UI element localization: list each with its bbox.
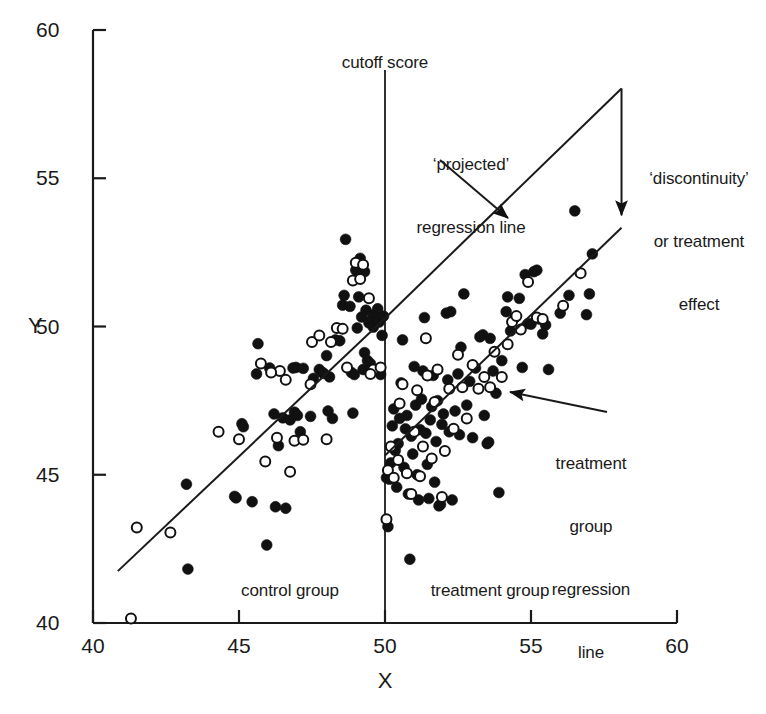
projected-line-label-line1: ‘projected’ <box>396 154 546 175</box>
data-point <box>165 528 175 538</box>
data-point <box>473 384 483 394</box>
data-point <box>497 372 507 382</box>
data-point <box>485 382 495 392</box>
data-point <box>427 453 437 463</box>
control-group-label: control group <box>220 580 360 601</box>
data-point <box>402 410 413 421</box>
data-point <box>234 434 244 444</box>
data-point <box>462 413 472 423</box>
data-point <box>272 433 282 443</box>
y-axis-title: Y <box>28 313 43 339</box>
data-point <box>496 355 507 366</box>
data-point <box>126 614 136 624</box>
data-point <box>397 334 408 345</box>
discontinuity-label-line2: or treatment <box>634 231 764 252</box>
data-point <box>569 205 580 216</box>
data-point <box>584 288 595 299</box>
data-point <box>285 467 295 477</box>
data-point <box>280 503 291 514</box>
data-point <box>214 427 224 437</box>
data-point <box>358 260 368 270</box>
data-point <box>420 428 431 439</box>
data-point <box>321 350 332 361</box>
data-point <box>538 314 548 324</box>
treatment-line-label-line2: group <box>528 516 654 537</box>
data-point <box>298 363 309 374</box>
data-point <box>181 479 192 490</box>
data-point <box>404 554 415 565</box>
data-point <box>253 338 264 349</box>
data-point <box>339 290 350 301</box>
data-point <box>402 468 412 478</box>
data-point <box>412 385 422 395</box>
data-point <box>364 293 374 303</box>
discontinuity-label: ‘discontinuity’ or treatment effect <box>634 126 764 357</box>
data-point <box>458 288 469 299</box>
y-tick-label-45: 45 <box>36 463 59 487</box>
data-point <box>270 501 281 512</box>
data-point <box>421 333 431 343</box>
data-point <box>269 409 280 420</box>
x-tick-label-60: 60 <box>652 634 702 658</box>
data-point <box>479 410 490 421</box>
data-point <box>389 473 399 483</box>
data-point <box>251 369 262 380</box>
data-point <box>461 400 472 411</box>
data-point <box>247 496 258 507</box>
data-point <box>342 362 352 372</box>
data-point <box>231 492 242 503</box>
treatment-line-label: treatment group regression line <box>528 411 654 705</box>
y-tick-label-55: 55 <box>36 166 59 190</box>
cutoff-score-label: cutoff score <box>305 52 465 73</box>
data-point <box>238 421 249 432</box>
data-point <box>449 424 459 434</box>
data-point <box>183 564 194 575</box>
data-point <box>517 362 528 373</box>
data-point <box>305 411 316 422</box>
data-point <box>433 364 443 374</box>
data-point <box>558 301 568 311</box>
data-point <box>338 324 348 334</box>
data-point <box>564 290 575 301</box>
treatment-line-label-line1: treatment <box>528 453 654 474</box>
data-point <box>419 312 430 323</box>
data-point <box>288 363 299 374</box>
data-point <box>514 293 525 304</box>
projected-line-label: ‘projected’ regression line <box>396 112 546 280</box>
data-point <box>355 274 365 284</box>
data-point <box>407 449 418 460</box>
data-point <box>398 379 408 389</box>
data-point <box>437 492 447 502</box>
data-point <box>314 330 324 340</box>
data-point <box>353 291 364 302</box>
data-point <box>447 495 458 506</box>
data-point <box>483 437 494 448</box>
data-point <box>377 330 388 341</box>
x-tick-label-45: 45 <box>214 634 264 658</box>
treatment-group-label: treatment group <box>410 580 570 601</box>
data-point <box>292 410 303 421</box>
data-point <box>298 435 308 445</box>
data-point <box>423 493 434 504</box>
data-point <box>340 234 351 245</box>
data-point <box>440 446 450 456</box>
data-point <box>490 347 500 357</box>
data-point <box>260 456 270 466</box>
data-point <box>445 306 456 317</box>
data-point <box>393 455 403 465</box>
data-point <box>587 248 598 259</box>
data-point <box>453 369 464 380</box>
projected-line-label-line2: regression line <box>396 217 546 238</box>
treatment-line-label-line4: line <box>528 642 654 663</box>
data-point <box>352 323 363 334</box>
treatment-line-arrow <box>510 392 607 412</box>
data-point <box>395 399 405 409</box>
data-point <box>256 359 266 369</box>
data-point <box>266 367 276 377</box>
x-tick-label-40: 40 <box>68 634 118 658</box>
data-point <box>450 406 461 417</box>
data-point <box>581 309 592 320</box>
data-point <box>347 408 358 419</box>
data-point <box>418 442 428 452</box>
y-tick-label-40: 40 <box>36 611 59 635</box>
